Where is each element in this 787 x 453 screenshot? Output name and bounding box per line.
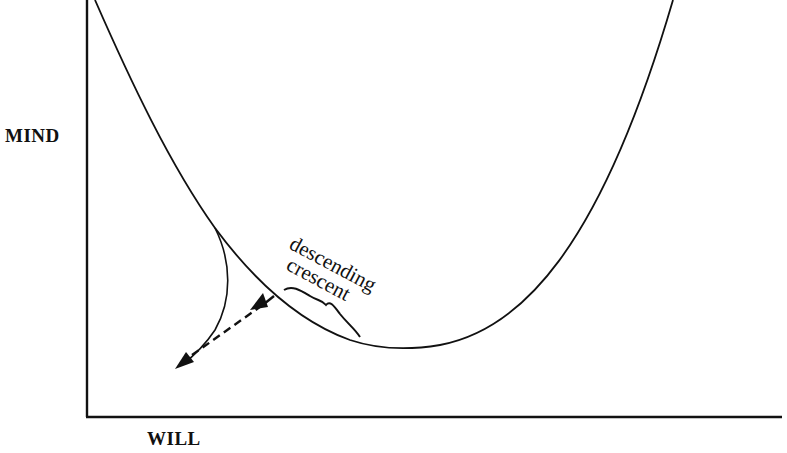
mind-will-diagram: MIND WILL descending crescent <box>0 0 787 453</box>
branch-arrowhead-icon <box>175 352 194 369</box>
y-axis-label: MIND <box>5 125 60 147</box>
dashed-arrowhead-icon <box>250 293 268 310</box>
dashed-double-arrow <box>192 304 264 355</box>
x-axis-label: WILL <box>147 428 201 450</box>
diagram-canvas <box>0 0 787 453</box>
main-curve <box>95 0 673 348</box>
